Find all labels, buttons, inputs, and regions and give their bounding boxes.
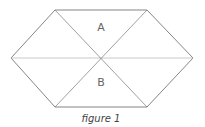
figure-caption: figure 1 <box>82 113 121 124</box>
region-label-a: A <box>97 21 105 34</box>
region-label-b: B <box>97 76 105 89</box>
hexagon-figure: A B figure 1 <box>0 0 205 127</box>
